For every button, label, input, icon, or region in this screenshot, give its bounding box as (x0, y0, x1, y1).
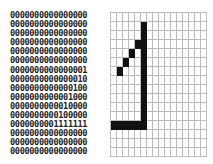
grid-cell (201, 40, 207, 49)
grid-cell (201, 121, 207, 130)
grid-cell (201, 94, 207, 103)
grid-cell (201, 103, 207, 112)
matrix-row: 0000000000000000 (10, 147, 87, 156)
grid-cell (201, 13, 207, 22)
grid-cell (201, 31, 207, 40)
binary-matrix-text: 0000000000000000000000000000000000000000… (10, 11, 87, 157)
grid-cell (201, 22, 207, 31)
grid-cell (201, 112, 207, 121)
grid-cell (201, 76, 207, 85)
grid-cell (201, 139, 207, 148)
grid-cell (201, 58, 207, 67)
grid-cell (201, 49, 207, 58)
pixel-grid (110, 12, 207, 157)
grid-cell (201, 85, 207, 94)
grid-cell (201, 67, 207, 76)
grid-cell (201, 148, 207, 157)
grid-cell (201, 130, 207, 139)
